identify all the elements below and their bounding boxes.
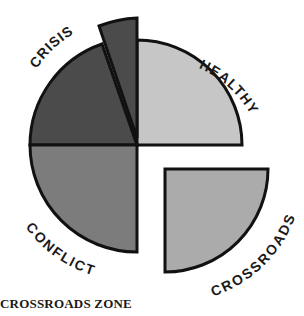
segment-healthy — [137, 40, 242, 145]
caption: CROSSROADS ZONE — [0, 296, 132, 312]
segment-crossroads — [165, 169, 268, 272]
zone-diagram: HEALTHY CRISIS CONFLICT CROSSROADS — [0, 0, 304, 316]
